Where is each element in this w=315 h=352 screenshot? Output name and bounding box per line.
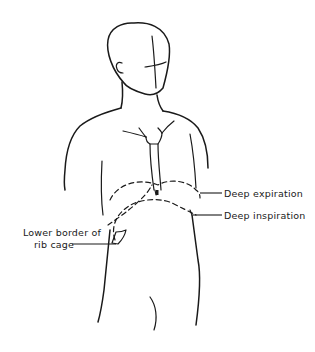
shoulders bbox=[64, 108, 208, 215]
label-deep-expiration: Deep expiration bbox=[224, 188, 303, 199]
torso-diagram: Deep expiration Deep inspiration Lower b… bbox=[0, 0, 315, 352]
head bbox=[108, 23, 170, 95]
label-rib-cage-line1: Lower border of bbox=[23, 227, 101, 238]
label-deep-inspiration: Deep inspiration bbox=[224, 210, 305, 221]
bifurcation-marker bbox=[156, 190, 159, 195]
label-rib-cage-line2: rib cage bbox=[34, 239, 74, 250]
deep-inspiration-curve bbox=[114, 200, 196, 240]
